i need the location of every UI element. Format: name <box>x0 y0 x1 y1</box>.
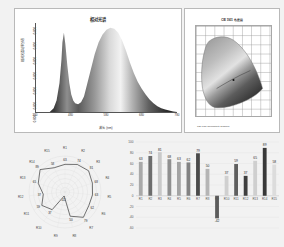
cie-chromaticity-panel: CIE 1931 色度图 <box>184 8 280 133</box>
bar-value-label: 58 <box>272 160 276 164</box>
bar-y-tick-labels: 100806040200-20-40-60 <box>128 140 133 230</box>
spectrum-curve-svg <box>36 23 177 112</box>
bar-rect <box>206 169 210 196</box>
bar-value-label: 37 <box>244 171 248 175</box>
bar-y-tick-label: 20 <box>130 183 134 187</box>
radar-value-label: 58 <box>51 162 55 166</box>
bar-x-tick-label: R10 <box>224 197 230 201</box>
bar-rect <box>187 162 191 195</box>
radar-value-label: 68 <box>95 180 99 184</box>
radar-axis-label: R4 <box>105 176 109 180</box>
radar-value-label: 74 <box>77 159 81 163</box>
spectrum-x-tick: 780 <box>174 113 179 117</box>
cie-x-axis-label: CIE 1931 Chromaticity Diagram <box>195 125 272 127</box>
radar-value-label: 50 <box>69 218 73 222</box>
bar-x-tick-label: R1 <box>139 197 143 201</box>
bar-x-tick-label: R8 <box>206 197 210 201</box>
bar-rect <box>158 152 162 196</box>
radar-axis-label: R3 <box>96 160 100 164</box>
spectrum-chart-panel: 相对光谱 相对光谱功率分布 0.000 0.000 0.000 0.000 0.… <box>14 8 182 133</box>
radar-axis-label: R2 <box>81 149 85 153</box>
bar-y-tick-label: 0 <box>132 194 134 198</box>
bar-rect <box>139 162 143 196</box>
radar-value-label: 62 <box>91 206 95 210</box>
radar-axis-label: R6 <box>102 212 106 216</box>
bar-value-label: -42 <box>215 219 220 223</box>
cri-bar-chart-panel: 100806040200-20-40-60 6374816863627950-4… <box>116 136 281 244</box>
radar-axis-label: R7 <box>89 226 93 230</box>
bar-y-tick-label: -40 <box>129 215 134 219</box>
radar-axis-label: R11 <box>24 212 30 216</box>
bar-rect <box>244 176 248 196</box>
radar-axis-label: R14 <box>29 160 35 164</box>
bar-rect <box>148 156 152 196</box>
bar-x-tick-label: R12 <box>243 197 249 201</box>
bar-rect <box>177 162 181 196</box>
radar-value-label: 81 <box>90 166 94 170</box>
report-page: 相对光谱 相对光谱功率分布 0.000 0.000 0.000 0.000 0.… <box>0 0 284 247</box>
radar-value-label: 63 <box>95 193 99 197</box>
bar-y-tick-label: 100 <box>128 140 133 144</box>
spectrum-x-tick: 580 <box>103 113 108 117</box>
radar-axis-label: R5 <box>107 195 111 199</box>
bar-value-label: 79 <box>196 149 200 153</box>
bar-rect <box>225 176 229 196</box>
cie-gamut-svg <box>196 26 271 116</box>
bar-rect <box>263 148 267 196</box>
cie-title: CIE 1931 色度图 <box>185 18 279 22</box>
radar-value-label: 65 <box>33 180 37 184</box>
bar-x-tick-label: R14 <box>262 197 268 201</box>
radar-value-label: 89 <box>35 165 39 169</box>
bar-value-label: 63 <box>177 157 181 161</box>
spectrum-y-ticks: 0.000 0.000 0.000 0.000 0.000 0.000 0.00… <box>19 23 35 115</box>
cie-plot-area <box>195 25 272 117</box>
bar-value-label: 68 <box>168 155 172 159</box>
bar-x-tick-label: R6 <box>187 197 191 201</box>
bar-x-tick-label: R5 <box>177 197 181 201</box>
bar-y-tick-label: 60 <box>130 162 134 166</box>
bar-y-tick-label: 40 <box>130 172 134 176</box>
spectrum-title: 相对光谱 <box>15 16 181 22</box>
spectrum-x-tick: 680 <box>139 113 144 117</box>
radar-value-label: 63 <box>63 158 67 162</box>
spectrum-x-ticks: 380 480 580 680 780 <box>35 113 177 120</box>
radar-axis-label: R9 <box>54 234 58 238</box>
radar-value-label: 79 <box>84 219 88 223</box>
bar-x-tick-label: R4 <box>167 197 171 201</box>
bar-value-label: 74 <box>148 151 152 155</box>
cri-radar-svg: R1R2R3R4R5R6R7R8R9R10R11R12R13R14R15 637… <box>10 136 120 244</box>
radar-axis-label: R13 <box>20 176 26 180</box>
bar-x-tick-label: R13 <box>252 197 258 201</box>
bar-value-label: 63 <box>139 157 143 161</box>
radar-axis-label: R1 <box>63 146 67 150</box>
spectrum-x-tick: 480 <box>68 113 73 117</box>
bar-value-label: 81 <box>158 148 162 152</box>
bar-value-label: 37 <box>225 171 229 175</box>
cri-bar-svg: 100806040200-20-40-60 6374816863627950-4… <box>116 136 281 244</box>
bar-value-label: 50 <box>206 164 210 168</box>
bar-x-tick-label: R3 <box>158 197 162 201</box>
bar-value-label: 89 <box>263 143 267 147</box>
bar-y-tick-label: -60 <box>129 226 134 230</box>
radar-axis-label: R15 <box>44 149 50 153</box>
radar-value-label: 59 <box>37 205 41 209</box>
bar-value-label: 62 <box>187 158 191 162</box>
bar-x-tick-labels: R1R2R3R4R5R6R7R8R9R10R11R12R13R14R15 <box>139 197 277 201</box>
bar-x-tick-label: R7 <box>196 197 200 201</box>
bar-rect <box>272 165 276 196</box>
bar-rect <box>167 159 171 196</box>
bar-x-tick-label: R15 <box>271 197 277 201</box>
radar-axis-label: R12 <box>18 195 24 199</box>
bar-y-tick-label: -20 <box>129 205 134 209</box>
bar-value-label: 65 <box>253 156 257 160</box>
bar-x-tick-label: R2 <box>148 197 152 201</box>
spectrum-x-axis-label: 波长 (nm) <box>35 125 177 130</box>
radar-axis-label: R10 <box>36 226 42 230</box>
radar-axis-label: R8 <box>72 234 76 238</box>
bar-rect <box>196 153 200 195</box>
bar-y-tick-label: 80 <box>130 151 134 155</box>
cie-white-point-marker <box>232 79 234 81</box>
radar-value-label: 37 <box>48 211 52 215</box>
bar-x-tick-label: R9 <box>215 197 219 201</box>
radar-value-label: 37 <box>38 193 42 197</box>
